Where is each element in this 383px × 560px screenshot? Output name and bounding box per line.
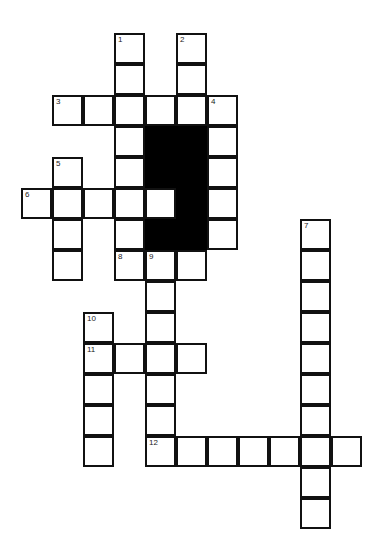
black-cell bbox=[145, 157, 176, 188]
crossword-cell[interactable] bbox=[207, 188, 238, 219]
clue-number: 2 bbox=[180, 35, 184, 45]
crossword-cell[interactable] bbox=[114, 219, 145, 250]
crossword-cell[interactable]: 7 bbox=[300, 219, 331, 250]
crossword-cell[interactable] bbox=[300, 312, 331, 343]
crossword-cell[interactable]: 11 bbox=[83, 343, 114, 374]
clue-number: 4 bbox=[211, 97, 215, 107]
crossword-cell[interactable]: 4 bbox=[207, 95, 238, 126]
crossword-cell[interactable] bbox=[176, 64, 207, 95]
crossword-cell[interactable] bbox=[114, 157, 145, 188]
crossword-cell[interactable] bbox=[145, 281, 176, 312]
black-cell bbox=[145, 126, 176, 157]
crossword-cell[interactable] bbox=[176, 436, 207, 467]
crossword-cell[interactable] bbox=[300, 467, 331, 498]
crossword-cell[interactable] bbox=[145, 188, 176, 219]
crossword-cell[interactable]: 12 bbox=[145, 436, 176, 467]
clue-number: 12 bbox=[149, 438, 158, 448]
crossword-cell[interactable] bbox=[145, 312, 176, 343]
crossword-cell[interactable]: 9 bbox=[145, 250, 176, 281]
crossword-cell[interactable] bbox=[83, 436, 114, 467]
crossword-cell[interactable] bbox=[269, 436, 300, 467]
crossword-cell[interactable] bbox=[300, 343, 331, 374]
black-cell bbox=[176, 188, 207, 219]
crossword-cell[interactable]: 2 bbox=[176, 33, 207, 64]
crossword-cell[interactable] bbox=[52, 219, 83, 250]
crossword-cell[interactable] bbox=[114, 64, 145, 95]
crossword-cell[interactable] bbox=[300, 436, 331, 467]
crossword-cell[interactable] bbox=[300, 250, 331, 281]
crossword-cell[interactable] bbox=[114, 188, 145, 219]
crossword-cell[interactable] bbox=[331, 436, 362, 467]
crossword-cell[interactable] bbox=[207, 219, 238, 250]
crossword-cell[interactable] bbox=[114, 126, 145, 157]
crossword-cell[interactable] bbox=[176, 250, 207, 281]
clue-number: 1 bbox=[118, 35, 122, 45]
clue-number: 11 bbox=[87, 345, 95, 355]
crossword-cell[interactable] bbox=[207, 436, 238, 467]
crossword-cell[interactable] bbox=[300, 498, 331, 529]
crossword-cell[interactable] bbox=[238, 436, 269, 467]
crossword-cell[interactable] bbox=[145, 95, 176, 126]
clue-number: 8 bbox=[118, 252, 122, 262]
crossword-cell[interactable] bbox=[145, 343, 176, 374]
black-cell bbox=[176, 126, 207, 157]
crossword-cell[interactable] bbox=[207, 157, 238, 188]
clue-number: 9 bbox=[149, 252, 153, 262]
clue-number: 7 bbox=[304, 221, 308, 231]
black-cell bbox=[145, 219, 176, 250]
clue-number: 3 bbox=[56, 97, 60, 107]
crossword-cell[interactable] bbox=[114, 95, 145, 126]
crossword-cell[interactable] bbox=[114, 343, 145, 374]
clue-number: 5 bbox=[56, 159, 60, 169]
crossword-cell[interactable] bbox=[83, 374, 114, 405]
crossword-cell[interactable]: 3 bbox=[52, 95, 83, 126]
black-cell bbox=[176, 157, 207, 188]
crossword-cell[interactable]: 10 bbox=[83, 312, 114, 343]
crossword-cell[interactable] bbox=[300, 405, 331, 436]
crossword-cell[interactable] bbox=[176, 95, 207, 126]
crossword-grid: 182345679121011 bbox=[0, 0, 383, 560]
crossword-cell[interactable] bbox=[176, 343, 207, 374]
crossword-cell[interactable]: 1 bbox=[114, 33, 145, 64]
black-cell bbox=[176, 219, 207, 250]
clue-number: 10 bbox=[87, 314, 96, 324]
crossword-cell[interactable] bbox=[83, 405, 114, 436]
crossword-cell[interactable] bbox=[300, 374, 331, 405]
crossword-cell[interactable] bbox=[52, 188, 83, 219]
crossword-cell[interactable] bbox=[145, 374, 176, 405]
crossword-cell[interactable] bbox=[207, 126, 238, 157]
crossword-cell[interactable] bbox=[83, 95, 114, 126]
crossword-cell[interactable]: 8 bbox=[114, 250, 145, 281]
crossword-cell[interactable] bbox=[52, 250, 83, 281]
crossword-cell[interactable] bbox=[83, 188, 114, 219]
crossword-cell[interactable] bbox=[300, 281, 331, 312]
clue-number: 6 bbox=[25, 190, 29, 200]
crossword-cell[interactable]: 6 bbox=[21, 188, 52, 219]
crossword-cell[interactable]: 5 bbox=[52, 157, 83, 188]
crossword-cell[interactable] bbox=[145, 405, 176, 436]
